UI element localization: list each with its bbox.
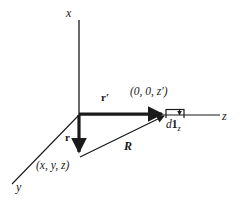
source-point-label: (0, 0, z′) bbox=[130, 86, 168, 98]
R-vector-label: R bbox=[124, 140, 132, 152]
r-prime-vector-label: r′ bbox=[101, 92, 109, 103]
dl-subscript-glyph: z bbox=[178, 124, 181, 133]
z-axis-label: z bbox=[222, 110, 227, 122]
y-axis-label: y bbox=[16, 181, 21, 193]
diagram-canvas bbox=[0, 0, 242, 203]
r-vector-label: r bbox=[65, 132, 70, 143]
field-point-label: (x, y, z) bbox=[36, 160, 69, 172]
coordinate-diagram-figure: x y z r′ r R (0, 0, z′) (x, y, z) d1z bbox=[0, 0, 242, 203]
differential-length-label: d1z bbox=[166, 119, 181, 133]
x-axis-label: x bbox=[66, 7, 71, 19]
R-vector-arrow bbox=[80, 116, 164, 157]
y-axis-line bbox=[12, 115, 79, 184]
